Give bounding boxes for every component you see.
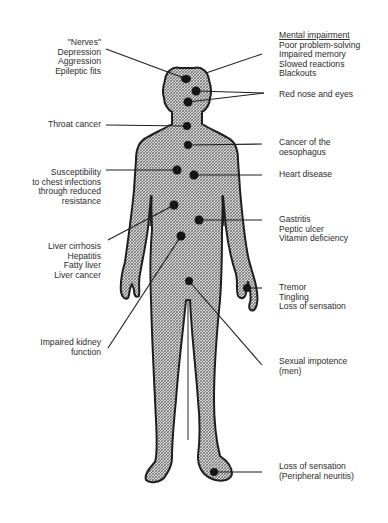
label-kidney: Impaired kidney function [40, 338, 101, 357]
line-nerves [106, 49, 184, 78]
label-line: Epileptic fits [55, 67, 101, 77]
label-chest: Susceptibility to chest infections throu… [32, 168, 101, 206]
label-throat: Throat cancer [48, 120, 101, 130]
label-line: oesophagus [279, 148, 331, 158]
marker-heart [190, 171, 199, 180]
marker-stomach [195, 216, 204, 225]
marker-kidney [177, 232, 186, 241]
line-mental [206, 54, 262, 73]
body-silhouette [121, 68, 258, 483]
marker-liver [170, 201, 179, 210]
body-outline [121, 68, 258, 483]
marker-brain [181, 75, 191, 83]
marker-hand [243, 284, 251, 292]
label-foot: Loss of sensation (Peripheral neuritis) [279, 462, 354, 481]
marker-lungs [173, 166, 182, 175]
label-line: resistance [32, 197, 101, 207]
marker-throat [183, 122, 191, 130]
marker-eyes [192, 87, 201, 96]
label-line: Vitamin deficiency [279, 234, 348, 244]
label-hand: Tremor Tingling Loss of sensation [279, 283, 346, 312]
label-line: Liver cancer [48, 271, 101, 281]
label-line: (men) [279, 367, 347, 377]
label-line: Loss of sensation [279, 302, 346, 312]
label-stomach: Gastritis Peptic ulcer Vitamin deficienc… [279, 215, 348, 244]
label-line: function [40, 348, 101, 358]
label-line: Throat cancer [48, 120, 101, 130]
marker-oesophagus [184, 141, 192, 149]
label-line: Heart disease [279, 170, 332, 180]
marker-foot [210, 468, 218, 476]
label-mental: Mental impairment Poor problem-solving I… [279, 31, 360, 79]
label-oesophagus: Cancer of the oesophagus [279, 138, 331, 157]
label-line: (Peripheral neuritis) [279, 472, 354, 482]
marker-genitals [185, 277, 193, 285]
label-line: Blackouts [279, 69, 360, 79]
label-liver: Liver cirrhosis Hepatitis Fatty liver Li… [48, 242, 101, 280]
label-sexual: Sexual impotence (men) [279, 357, 347, 376]
label-nose: Red nose and eyes [279, 90, 353, 100]
marker-nose [184, 98, 193, 107]
label-heart: Heart disease [279, 170, 332, 180]
label-line: Red nose and eyes [279, 90, 353, 100]
label-nerves: "Nerves" Depression Aggression Epileptic… [55, 38, 101, 76]
